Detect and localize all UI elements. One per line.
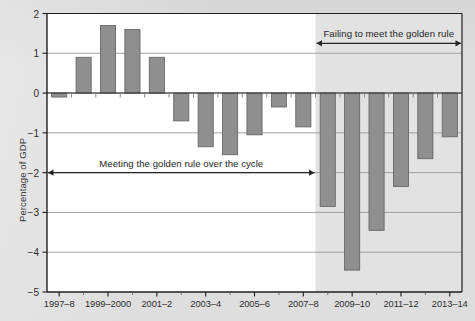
shaded-region [316,14,462,293]
bar-2012-13 [418,93,433,159]
bar-2006-7 [271,93,286,107]
bar-2013-14 [442,93,457,137]
bar-rect [125,29,140,93]
annotation-label-failing: Failing to meet the golden rule [323,28,454,39]
bar-1997-8 [52,93,67,97]
x-axis-tick-label: 2013–14 [432,299,468,309]
bar-2004-5 [223,93,238,155]
bar-rect [198,93,213,147]
bar-rect [345,93,360,270]
bar-rect [76,57,91,93]
x-axis-tick-label: 2005–6 [239,299,270,309]
y-axis-tick-label: −5 [0,287,39,298]
x-axis-tick-label: 2003–4 [190,299,221,309]
y-axis-tick-label: 2 [0,8,39,19]
bar-1999-2000 [100,25,115,93]
x-axis-tick-label: 2007–8 [288,299,319,309]
bar-rect [223,93,238,155]
x-axis-tick-label: 2011–12 [383,299,418,309]
bar-2005-6 [247,93,262,135]
y-axis-tick-label: 1 [0,48,39,59]
bar-2010-11 [369,93,384,230]
bar-1998-9 [76,57,91,93]
y-axis-tick-label: 0 [0,88,39,99]
bar-rect [247,93,262,135]
y-axis-tick-label: −1 [0,127,39,138]
bar-2011-12 [393,93,408,187]
bar-2008-9 [320,93,335,206]
x-axis-tick-label: 1997–8 [44,299,75,309]
bar-rect [418,93,433,159]
bar-rect [52,93,67,97]
y-axis-title: Percentage of GDP [17,138,28,222]
x-axis-tick-label: 1999–2000 [85,299,131,309]
annotation-label-meeting: Meeting the golden rule over the cycle [99,158,263,169]
bar-2007-8 [296,93,311,127]
bar-rect [271,93,286,107]
bar-rect [369,93,384,230]
bar-2000-1 [125,29,140,93]
bar-2009-10 [345,93,360,270]
bar-2002-3 [174,93,189,121]
bar-rect [174,93,189,121]
y-axis-tick-label: −4 [0,247,39,258]
x-axis-tick-label: 2009–10 [334,299,370,309]
bar-rect [149,57,164,93]
x-axis-tick-label: 2001–2 [141,299,172,309]
bar-rect [100,25,115,93]
bar-rect [296,93,311,127]
bar-rect [393,93,408,187]
bar-2001-2 [149,57,164,93]
bar-rect [320,93,335,206]
bar-2003-4 [198,93,213,147]
bar-rect [442,93,457,137]
